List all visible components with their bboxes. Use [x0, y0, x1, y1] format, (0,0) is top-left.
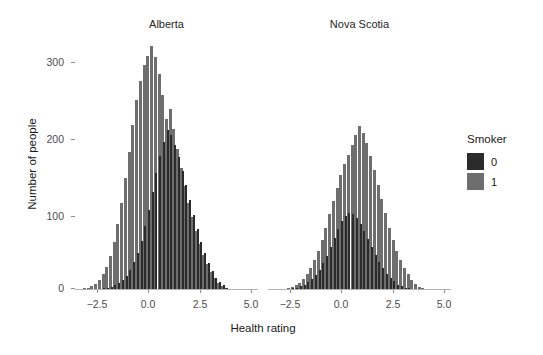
chart-root: Alberta Nova Scotia Number of people 300… — [0, 0, 543, 355]
x-tick-mark-p1-2-5 — [200, 290, 201, 293]
x-tick-label-p2-2-5: 2.5 — [373, 298, 413, 310]
histogram-bar — [363, 231, 365, 290]
legend-swatch-0 — [467, 153, 484, 170]
histogram-bar — [109, 256, 112, 290]
y-tick-label-100: 100 — [26, 210, 64, 222]
x-tick-label-p2-5: 5.0 — [424, 298, 464, 310]
histogram-bar — [360, 224, 362, 290]
histogram-bar — [208, 263, 210, 290]
histogram-bar — [356, 218, 358, 290]
histogram-bar — [159, 156, 161, 290]
histogram-bar — [334, 238, 336, 290]
histogram-bar — [330, 247, 332, 290]
facet-panel-alberta — [75, 40, 258, 290]
histogram-bar — [371, 247, 373, 290]
x-tick-label-p1-2-5: 2.5 — [180, 298, 220, 310]
x-axis-title: Health rating — [150, 322, 376, 334]
histogram-bar — [129, 270, 131, 290]
histogram-bar — [204, 253, 206, 290]
y-tick-label-200: 200 — [26, 133, 64, 145]
histogram-bar — [120, 203, 123, 291]
histogram-bar — [141, 241, 143, 290]
histogram-bar — [212, 271, 214, 290]
x-tick-label-p1-0: 0.0 — [128, 298, 168, 310]
legend-entry-1[interactable]: 1 — [467, 172, 497, 190]
histogram-bar — [200, 242, 202, 290]
y-tick-label-0: 0 — [26, 282, 64, 294]
histogram-bar — [378, 262, 380, 290]
facet-strip-label-alberta: Alberta — [75, 18, 258, 30]
x-tick-label-p1-neg2-5: −2.5 — [77, 298, 117, 310]
legend-title: Smoker — [467, 133, 507, 145]
histogram-bar — [322, 263, 324, 290]
x-tick-mark-p2-5 — [444, 290, 445, 293]
histogram-bar — [116, 224, 119, 290]
histogram-bar — [163, 142, 165, 290]
histogram-bar — [155, 173, 157, 290]
panel-axis-line-alberta — [75, 289, 258, 290]
histogram-bar — [178, 157, 180, 290]
histogram-bar — [375, 255, 377, 290]
facet-strip-label-nova-scotia: Nova Scotia — [268, 18, 451, 30]
legend-label-0: 0 — [491, 156, 497, 168]
x-tick-mark-p1-0 — [148, 290, 149, 293]
histogram-bar — [105, 267, 108, 290]
x-tick-label-p2-0: 0.0 — [321, 298, 361, 310]
histogram-bar — [352, 214, 354, 290]
histogram-bar — [193, 215, 195, 290]
histogram-bar — [382, 268, 384, 290]
legend-swatch-1 — [467, 173, 484, 190]
histogram-bar — [174, 145, 176, 290]
panel-axis-line-nova-scotia — [268, 289, 451, 290]
histogram-bar — [137, 253, 139, 291]
histogram-bar — [315, 275, 317, 290]
histogram-bar — [341, 221, 343, 290]
histogram-bar — [182, 171, 184, 290]
histogram-bar — [113, 242, 116, 290]
histogram-bar — [152, 192, 154, 290]
facet-panel-nova-scotia — [268, 40, 451, 290]
histogram-bar — [133, 262, 135, 290]
x-tick-label-p1-5: 5.0 — [231, 298, 271, 310]
x-tick-mark-p1-5 — [251, 290, 252, 293]
histogram-bar — [126, 276, 128, 290]
histogram-bar — [185, 185, 187, 290]
histogram-bar — [167, 130, 169, 290]
x-tick-mark-p2-0 — [341, 290, 342, 293]
histogram-bar — [189, 200, 191, 290]
histogram-bar — [367, 239, 369, 290]
histogram-bar — [124, 178, 127, 290]
x-tick-label-p2-neg2-5: −2.5 — [270, 298, 310, 310]
x-tick-mark-p1-neg2-5 — [97, 290, 98, 293]
histogram-bar — [337, 229, 339, 290]
y-tick-label-300: 300 — [26, 56, 64, 68]
legend-entry-0[interactable]: 0 — [467, 152, 497, 170]
histogram-bar — [144, 226, 146, 290]
histogram-bar — [326, 256, 328, 290]
histogram-bar — [345, 216, 347, 290]
histogram-bar — [148, 210, 150, 290]
legend-label-1: 1 — [491, 176, 497, 188]
histogram-bar — [319, 270, 321, 290]
histogram-bar — [170, 135, 172, 290]
x-tick-mark-p2-neg2-5 — [290, 290, 291, 293]
x-tick-mark-p2-2-5 — [393, 290, 394, 293]
histogram-bar — [386, 274, 388, 290]
histogram-bar — [197, 229, 199, 290]
histogram-bar — [348, 213, 350, 290]
